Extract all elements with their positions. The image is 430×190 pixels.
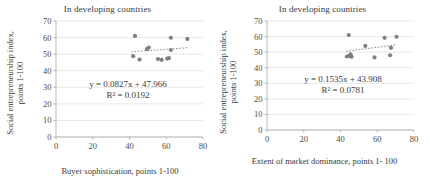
x-tick-label: 60 (162, 141, 171, 151)
scatter-point (169, 36, 173, 40)
x-tick-label: 40 (125, 141, 134, 151)
x-tick-label: 20 (89, 141, 98, 151)
scatter-point (394, 35, 398, 39)
scatter-plot-left: 010203040506070020406080y = 0.0827x + 47… (0, 0, 215, 190)
scatter-point (349, 55, 353, 59)
scatter-point (169, 48, 173, 52)
y-tick-label: 40 (43, 66, 52, 76)
x-tick-label: 80 (199, 141, 208, 151)
y-tick-label: 0 (258, 125, 262, 135)
scatter-point (167, 56, 171, 60)
y-tick-label: 70 (254, 16, 263, 26)
y-tick-label: 20 (254, 94, 263, 104)
chart-panel-market-dominance: In developing countries Social entrepren… (215, 0, 430, 190)
x-tick-label: 40 (336, 134, 345, 144)
scatter-point (388, 53, 392, 57)
x-axis-title-line1: Buyer sophistication, points 1-100 (61, 166, 178, 176)
trendline-equation-label: y = 0.1535x + 43.908 (304, 74, 382, 84)
scatter-point (372, 55, 376, 59)
x-tick-label: 80 (410, 134, 419, 144)
scatter-point (138, 58, 142, 62)
r-squared-label: R² = 0.0781 (321, 85, 364, 95)
y-tick-label: 70 (43, 16, 52, 26)
y-tick-label: 0 (47, 132, 51, 142)
scatter-point (131, 54, 135, 58)
y-tick-label: 20 (43, 99, 52, 109)
x-tick-label: 0 (54, 141, 58, 151)
y-tick-label: 40 (254, 63, 263, 73)
scatter-point (147, 45, 151, 49)
scatter-point (133, 34, 137, 38)
scatter-point (185, 37, 189, 41)
y-tick-label: 60 (43, 33, 52, 43)
x-tick-label: 60 (373, 134, 382, 144)
scatter-figure-row: In developing countries Social entrepren… (0, 0, 430, 190)
scatter-point (363, 44, 367, 48)
x-tick-label: 20 (300, 134, 309, 144)
x-axis-title-line2: 100 (385, 156, 398, 166)
y-tick-label: 30 (254, 78, 263, 88)
scatter-point (383, 36, 387, 40)
x-tick-label: 0 (265, 134, 269, 144)
x-axis-title: Buyer sophistication, points 1-100 (30, 166, 210, 177)
trendline (131, 48, 188, 52)
chart-panel-buyer-sophistication: In developing countries Social entrepren… (0, 0, 215, 190)
y-tick-label: 50 (43, 49, 52, 59)
scatter-point (389, 46, 393, 50)
x-axis-title-line1: Extent of market dominance, points 1- (252, 156, 383, 166)
y-tick-label: 30 (43, 82, 52, 92)
x-axis-title: Extent of market dominance, points 1- 10… (237, 156, 412, 167)
trendline-equation-label: y = 0.0827x + 47.966 (89, 79, 167, 89)
scatter-point (347, 33, 351, 37)
y-tick-label: 10 (254, 109, 263, 119)
scatter-point (160, 58, 164, 62)
y-tick-label: 50 (254, 47, 263, 57)
y-tick-label: 10 (43, 115, 52, 125)
r-squared-label: R² = 0.0192 (106, 90, 149, 100)
trendline (346, 45, 396, 51)
scatter-point (156, 57, 160, 61)
y-tick-label: 60 (254, 32, 263, 42)
